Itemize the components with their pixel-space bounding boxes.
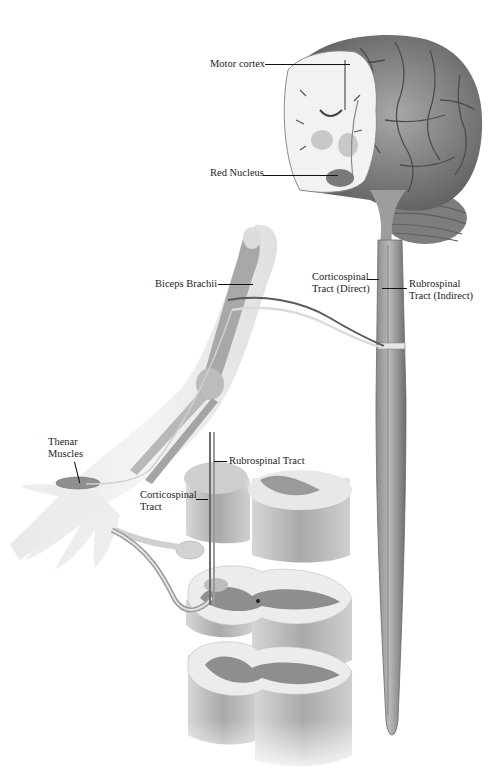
spinal-cord [370, 190, 406, 735]
label-rubrospinal-indirect-line2: Tract (Indirect) [409, 290, 473, 302]
label-motor-cortex: Motor cortex [210, 58, 265, 70]
label-corticospinal-direct-line1: Corticospinal [312, 271, 369, 283]
spinal-segment-top [180, 462, 360, 563]
leader-biceps-brachii [218, 284, 253, 285]
spinal-segment-bottom [180, 642, 360, 776]
leader-motor-cortex [265, 64, 350, 65]
leader-corticospinal-direct [367, 279, 379, 280]
label-thenar-line2: Muscles [48, 448, 83, 460]
label-rubrospinal-indirect-line1: Rubrospinal [409, 278, 460, 290]
label-corticospinal-tract-line2: Tract [140, 501, 162, 513]
leader-corticospinal-tract [196, 499, 208, 500]
label-red-nucleus: Red Nucleus [210, 167, 264, 179]
leader-red-nucleus [263, 175, 338, 176]
label-rubrospinal-tract: Rubrospinal Tract [229, 455, 305, 467]
label-biceps-brachii: Biceps Brachii [155, 278, 217, 290]
leader-rubrospinal-tract [214, 461, 227, 462]
label-corticospinal-direct-line2: Tract (Direct) [312, 283, 370, 295]
motor-pathway-illustration: Motor cortex Red Nucleus Biceps Brachii … [0, 0, 502, 776]
leader-rubrospinal-indirect [382, 288, 407, 289]
label-corticospinal-tract-line1: Corticospinal [140, 489, 197, 501]
label-thenar-line1: Thenar [48, 436, 78, 448]
